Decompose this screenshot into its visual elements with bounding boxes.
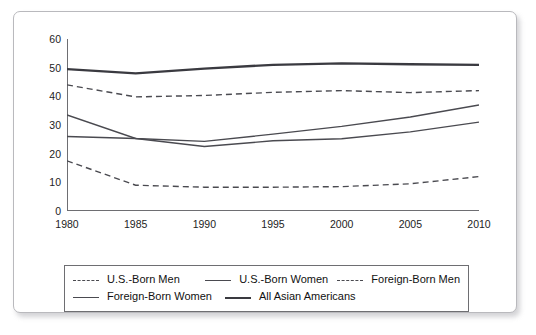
legend-item-u-s-born-men[interactable]: U.S.-Born Men xyxy=(73,274,205,285)
x-axis-tick-label: 2010 xyxy=(467,219,490,230)
chart-legend: U.S.-Born MenU.S.-Born WomenForeign-Born… xyxy=(64,265,469,312)
legend-swatch-solid-icon xyxy=(73,292,99,302)
y-axis-tick-label: 50 xyxy=(49,62,61,73)
plot-area: 0102030405060198019851990199520002005201… xyxy=(67,39,479,211)
plot-svg xyxy=(67,39,479,211)
chart-screenshot: 0102030405060198019851990199520002005201… xyxy=(0,0,536,335)
y-axis-tick-label: 60 xyxy=(49,34,61,45)
legend-item-foreign-born-women[interactable]: Foreign-Born Women xyxy=(73,291,225,302)
legend-swatch-solid-icon xyxy=(205,275,231,285)
y-axis-tick-label: 20 xyxy=(49,148,61,159)
x-axis-tick-label: 2000 xyxy=(330,219,353,230)
legend-label: Foreign-Born Women xyxy=(107,291,212,302)
x-axis-tick-label: 1980 xyxy=(55,219,78,230)
legend-item-foreign-born-men[interactable]: Foreign-Born Men xyxy=(337,274,460,285)
legend-row: U.S.-Born MenU.S.-Born WomenForeign-Born… xyxy=(73,271,460,288)
chart-card: 0102030405060198019851990199520002005201… xyxy=(13,11,517,313)
series-line-u-s-born-men xyxy=(67,161,479,187)
legend-label: U.S.-Born Women xyxy=(239,274,328,285)
legend-row: Foreign-Born WomenAll Asian Americans xyxy=(73,288,460,305)
legend-item-u-s-born-women[interactable]: U.S.-Born Women xyxy=(205,274,337,285)
x-axis-tick-label: 1985 xyxy=(124,219,147,230)
legend-swatch-dashed-icon xyxy=(73,275,99,285)
x-axis-tick-label: 1990 xyxy=(193,219,216,230)
legend-swatch-solid-thick-icon xyxy=(225,292,251,302)
legend-label: U.S.-Born Men xyxy=(107,274,180,285)
legend-item-all-asian-americans[interactable]: All Asian Americans xyxy=(225,291,377,302)
y-axis-tick-label: 0 xyxy=(55,206,61,217)
x-axis-tick-label: 1995 xyxy=(261,219,284,230)
series-line-foreign-born-men xyxy=(67,85,479,97)
x-axis-tick-label: 2005 xyxy=(399,219,422,230)
y-axis-tick-label: 30 xyxy=(49,120,61,131)
legend-swatch-dashed-icon xyxy=(337,275,363,285)
y-axis-tick-label: 10 xyxy=(49,177,61,188)
y-axis-tick-label: 40 xyxy=(49,91,61,102)
legend-label: All Asian Americans xyxy=(259,291,356,302)
series-line-u-s-born-women xyxy=(67,105,479,141)
legend-label: Foreign-Born Men xyxy=(371,274,460,285)
series-line-all-asian-americans xyxy=(67,63,479,73)
